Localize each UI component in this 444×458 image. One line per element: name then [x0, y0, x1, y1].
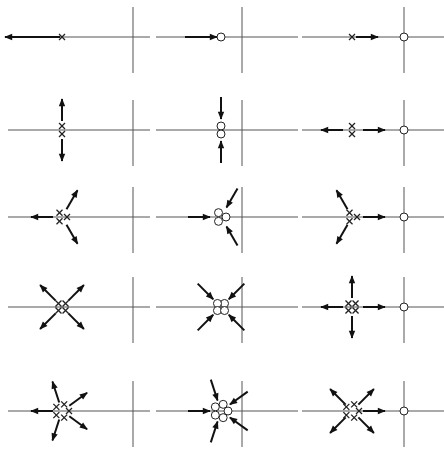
- panel-r2-c2: [156, 97, 298, 166]
- zero-marker: [215, 217, 223, 225]
- pole-marker: [347, 210, 353, 216]
- panel-r1-c2: [156, 7, 298, 73]
- panel-r3-c1: [8, 187, 150, 253]
- locus-arrow: [198, 284, 214, 300]
- locus-arrow: [230, 417, 248, 430]
- zero-marker: [221, 307, 229, 315]
- panel-r5-c1: [8, 381, 150, 447]
- panel-r4-c3: [302, 276, 444, 343]
- zero-marker: [217, 33, 225, 41]
- locus-arrow: [69, 393, 87, 406]
- pole-marker: [353, 300, 359, 306]
- locus-arrow: [211, 421, 218, 442]
- panel-r1-c3: [302, 7, 444, 73]
- locus-arrow: [358, 389, 374, 405]
- pole-marker: [349, 123, 355, 129]
- panel-r1-c1: [5, 7, 150, 73]
- zero-marker: [217, 122, 225, 130]
- pole-marker: [343, 412, 349, 418]
- pole-marker: [57, 218, 63, 224]
- panel-r2-c3: [302, 100, 444, 166]
- locus-arrow: [358, 417, 374, 433]
- panel-r4-c1: [8, 277, 150, 343]
- zero-marker: [222, 213, 230, 221]
- locus-arrow: [40, 285, 56, 301]
- zero-marker: [217, 130, 225, 138]
- pole-marker: [343, 404, 349, 410]
- locus-arrow: [52, 382, 59, 403]
- zero-marker: [219, 400, 227, 408]
- pole-marker: [53, 412, 59, 418]
- locus-arrow: [69, 416, 87, 429]
- pole-marker: [61, 401, 67, 407]
- pole-marker: [55, 300, 61, 306]
- zero-marker: [211, 403, 219, 411]
- pole-marker: [347, 218, 353, 224]
- zero-marker: [400, 33, 408, 41]
- panel-r5-c2: [156, 380, 298, 447]
- pole-marker: [55, 308, 61, 314]
- locus-arrow: [198, 315, 214, 331]
- pole-marker: [59, 123, 65, 129]
- panel-r3-c2: [156, 187, 298, 253]
- locus-arrow: [67, 190, 78, 209]
- panel-r2-c1: [8, 99, 150, 166]
- zero-marker: [400, 303, 408, 311]
- locus-arrow: [211, 380, 218, 401]
- pole-marker: [351, 401, 357, 407]
- pole-marker: [345, 308, 351, 314]
- pole-marker: [353, 308, 359, 314]
- pole-marker: [349, 131, 355, 137]
- zero-marker: [400, 407, 408, 415]
- locus-arrow: [230, 392, 248, 405]
- pole-marker: [345, 300, 351, 306]
- locus-arrow: [330, 417, 346, 433]
- panel-r4-c2: [156, 277, 298, 343]
- panel-r5-c3: [302, 381, 444, 447]
- pole-marker: [63, 300, 69, 306]
- locus-arrow: [227, 227, 238, 246]
- locus-arrow: [330, 389, 346, 405]
- locus-arrow: [227, 188, 238, 207]
- panel-r3-c3: [302, 187, 444, 253]
- pole-marker: [61, 415, 67, 421]
- zero-marker: [215, 209, 223, 217]
- locus-arrow: [52, 420, 59, 441]
- pole-marker: [53, 404, 59, 410]
- zero-marker: [211, 411, 219, 419]
- pole-marker: [63, 308, 69, 314]
- root-locus-figure: [0, 0, 444, 458]
- pole-marker: [59, 131, 65, 137]
- pole-marker: [57, 210, 63, 216]
- pole-marker: [351, 415, 357, 421]
- locus-arrow: [67, 225, 78, 244]
- locus-arrow: [40, 313, 56, 329]
- locus-arrow: [68, 285, 84, 301]
- locus-arrow: [337, 190, 348, 209]
- locus-arrow: [68, 313, 84, 329]
- zero-marker: [400, 213, 408, 221]
- zero-marker: [400, 126, 408, 134]
- locus-arrow: [337, 225, 348, 244]
- zero-marker: [219, 414, 227, 422]
